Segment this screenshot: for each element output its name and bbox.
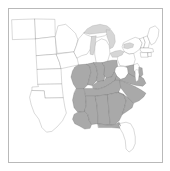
us-eastern-states-map (9, 9, 162, 162)
state-massachusetts (141, 48, 154, 53)
state-montana (12, 19, 36, 40)
state-arkansas (72, 89, 86, 113)
state-missouri (71, 64, 91, 88)
state-connecticut (141, 53, 149, 58)
map-figure (0, 0, 170, 171)
state-georgia (108, 92, 126, 125)
state-rhode-island (148, 53, 151, 57)
state-south-dakota (36, 37, 57, 56)
state-florida-peninsula (118, 122, 135, 152)
state-kansas (37, 69, 61, 85)
state-north-dakota (35, 19, 55, 39)
map-frame-border (8, 8, 163, 163)
state-minnesota (55, 24, 78, 53)
